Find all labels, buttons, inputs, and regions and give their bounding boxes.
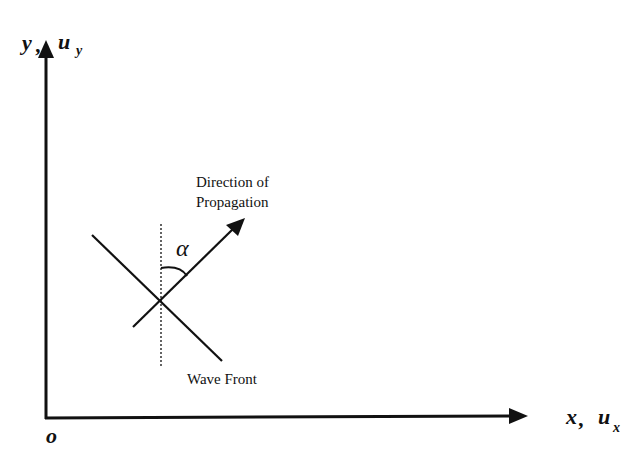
x-axis-label: x , u x	[565, 404, 620, 435]
diagram-canvas: y , u y x , u x o α Direction of Propaga…	[0, 0, 643, 473]
y-axis-label-sub: y	[74, 43, 83, 58]
x-axis-label-sub: x	[612, 420, 620, 435]
y-axis-label-u: u	[58, 29, 70, 54]
direction-label-line1: Direction of	[196, 174, 269, 190]
wave-front-label: Wave Front	[187, 371, 258, 387]
x-axis	[45, 408, 528, 424]
x-axis-arrowhead-icon	[509, 408, 528, 424]
x-axis-label-sep: ,	[578, 406, 585, 431]
angle-alpha-label: α	[176, 235, 189, 261]
y-axis-label-sep: ,	[35, 32, 42, 57]
direction-label-line2: Propagation	[196, 194, 269, 210]
angle-arc	[161, 267, 187, 276]
x-axis-label-u: u	[598, 404, 610, 429]
y-axis	[38, 40, 54, 419]
x-axis-label-main: x	[565, 404, 577, 429]
wave-front-line	[92, 235, 222, 361]
origin-label: o	[46, 423, 57, 448]
y-axis-label-main: y	[19, 30, 32, 55]
